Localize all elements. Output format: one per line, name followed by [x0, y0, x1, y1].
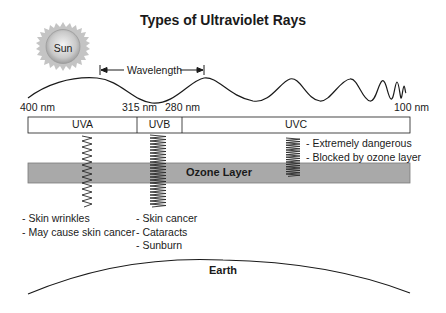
uvb-effects: - Skin cancer - Cataracts - Sunburn	[136, 212, 197, 253]
tick-400nm: 400 nm	[20, 101, 55, 113]
uv-wave	[28, 78, 406, 103]
tick-100nm: 100 nm	[394, 101, 429, 113]
uva-effects: - Skin wrinkles - May cause skin cancer	[22, 212, 135, 239]
tick-315nm: 315 nm	[122, 101, 157, 113]
uvb-effect-item: - Skin cancer	[136, 212, 197, 226]
uva-effect-item: - Skin wrinkles	[22, 212, 135, 226]
ozone-layer-label: Ozone Layer	[28, 166, 410, 178]
sun-label: Sun	[41, 42, 85, 54]
band-uvc-label: UVC	[182, 118, 410, 130]
earth-label: Earth	[0, 264, 446, 276]
uvb-effect-item: - Cataracts	[136, 226, 197, 240]
band-uvb-label: UVB	[137, 118, 182, 130]
uvc-effects: - Extremely dangerous - Blocked by ozone…	[306, 137, 421, 164]
uva-effect-item: - May cause skin cancer	[22, 226, 135, 240]
uvb-effect-item: - Sunburn	[136, 239, 197, 253]
tick-280nm: 280 nm	[165, 101, 200, 113]
wavelength-label: Wavelength	[127, 64, 182, 76]
uvc-effect-item: - Blocked by ozone layer	[306, 151, 421, 165]
uvc-effect-item: - Extremely dangerous	[306, 137, 421, 151]
band-uva-label: UVA	[28, 118, 137, 130]
